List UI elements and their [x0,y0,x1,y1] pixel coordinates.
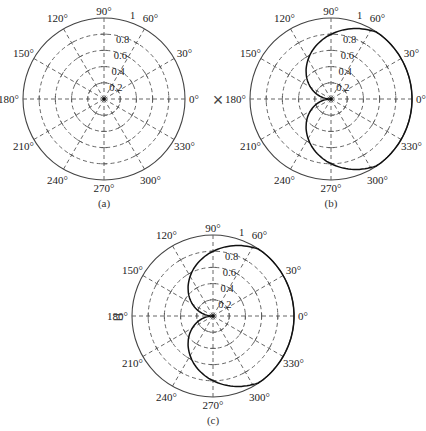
angle-label: 270° [203,399,224,411]
angle-label: 60° [370,12,385,24]
angle-spoke [104,99,145,169]
radial-label: 0.6 [223,267,236,278]
angle-spoke [213,316,254,386]
radial-label: 0.4 [112,66,126,77]
radial-label: 0.2 [218,299,231,310]
angle-label: 90° [96,5,111,17]
angle-label: 330° [174,140,195,152]
angle-spoke [34,59,104,100]
angle-label: 90° [205,222,220,234]
angle-label: 210° [122,357,143,369]
angle-spoke [143,316,213,357]
angle-spoke [261,59,331,100]
angle-label: 300° [367,174,388,186]
angle-spoke [213,316,283,357]
radial-label: 1 [357,10,362,21]
angle-label: 120° [47,12,68,24]
radial-label: 0.8 [116,34,129,45]
angle-label: 270° [94,182,115,194]
equals-operator: = [113,307,124,327]
angle-spoke [64,29,105,99]
angle-label: 240° [156,391,177,403]
plot-caption: (a) [98,197,111,210]
radial-label: 0.2 [109,82,122,93]
angle-label: 180° [0,93,19,105]
polar-pattern-figure: 0°30°60°90°120°150°180°210°240°270°300°3… [0,0,426,431]
angle-label: 270° [321,182,342,194]
angle-spoke [64,99,105,169]
angle-spoke [261,99,331,140]
radial-label: 0.4 [221,283,235,294]
angle-label: 60° [143,12,158,24]
angle-label: 30° [177,47,192,59]
angle-spoke [331,99,401,140]
plot-caption: (c) [207,414,220,427]
polar-plot-c: 0°30°60°90°120°150°180°210°240°270°300°3… [107,222,308,427]
angle-label: 120° [274,12,295,24]
radial-label: 0.6 [114,50,127,61]
radial-label: 1 [239,227,244,238]
angle-label: 330° [401,140,422,152]
angle-spoke [143,276,213,317]
angle-label: 60° [252,229,267,241]
multiply-operator: × [213,90,224,110]
origin-dot [102,97,106,101]
angle-label: 120° [156,229,177,241]
angle-label: 210° [240,140,261,152]
radial-label: 0.2 [336,82,349,93]
radial-label: 1 [130,10,135,21]
radial-label: 0.8 [343,34,356,45]
angle-label: 180° [225,93,246,105]
angle-label: 90° [323,5,338,17]
angle-label: 300° [249,391,270,403]
angle-label: 30° [404,47,419,59]
angle-label: 300° [140,174,161,186]
plot-caption: (b) [325,197,338,210]
angle-label: 0° [189,93,199,105]
angle-label: 330° [283,357,304,369]
angle-spoke [331,99,372,169]
angle-label: 150° [122,264,143,276]
polar-plot-a: 0°30°60°90°120°150°180°210°240°270°300°3… [0,5,199,210]
angle-label: 210° [13,140,34,152]
radial-label: 0.6 [341,50,354,61]
angle-spoke [104,99,174,140]
angle-label: 240° [274,174,295,186]
angle-label: 0° [298,310,308,322]
polar-plot-b: 0°30°60°90°120°150°180°210°240°270°300°3… [225,5,426,210]
radial-label: 0.4 [339,66,353,77]
angle-label: 0° [416,93,426,105]
angle-label: 240° [47,174,68,186]
angle-label: 150° [240,47,261,59]
angle-spoke [34,99,104,140]
angle-label: 150° [13,47,34,59]
angle-label: 30° [286,264,301,276]
radial-label: 0.8 [225,251,238,262]
